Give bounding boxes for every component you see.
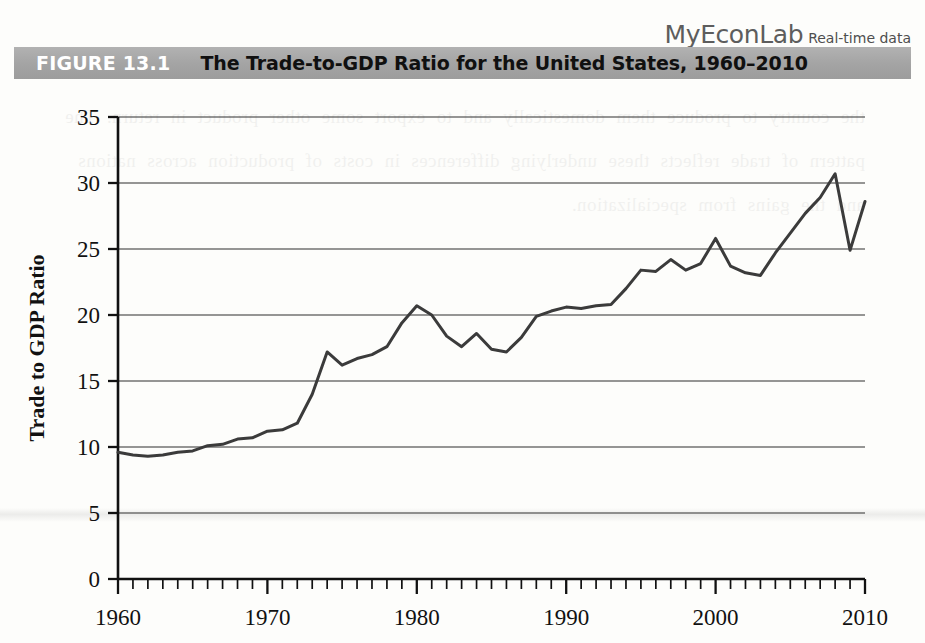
svg-text:1970: 1970 [244, 605, 290, 630]
x-axis-tick-labels: 196019701980199020002010 [95, 605, 888, 630]
figure-title: The Trade-to-GDP Ratio for the United St… [200, 52, 808, 74]
svg-text:2010: 2010 [842, 605, 888, 630]
myeconlab-badge: MyEconLab Real-time data [665, 20, 911, 49]
y-axis-title: Trade to GDP Ratio [24, 254, 49, 441]
figure-number: FIGURE 13.1 [36, 52, 170, 74]
svg-text:1960: 1960 [95, 605, 141, 630]
svg-text:0: 0 [89, 567, 101, 592]
chart-area: 05101520253035 196019701980199020002010 … [0, 79, 925, 643]
svg-text:30: 30 [77, 171, 100, 196]
svg-text:1990: 1990 [543, 605, 589, 630]
y-axis-ticks [108, 117, 118, 579]
svg-text:10: 10 [77, 435, 100, 460]
myeconlab-brand: MyEconLab [665, 20, 804, 49]
myeconlab-realtime-label: Real-time data [808, 30, 911, 46]
svg-text:35: 35 [77, 105, 100, 130]
svg-text:25: 25 [77, 237, 100, 262]
gridlines [118, 117, 865, 513]
svg-text:15: 15 [77, 369, 100, 394]
x-axis-ticks [118, 579, 865, 594]
svg-text:20: 20 [77, 303, 100, 328]
line-chart: 05101520253035 196019701980199020002010 … [0, 79, 925, 643]
svg-text:2000: 2000 [693, 605, 739, 630]
svg-text:5: 5 [89, 501, 101, 526]
svg-text:1980: 1980 [394, 605, 440, 630]
figure-title-bar: FIGURE 13.1 The Trade-to-GDP Ratio for t… [14, 47, 911, 79]
y-axis-tick-labels: 05101520253035 [77, 105, 100, 592]
